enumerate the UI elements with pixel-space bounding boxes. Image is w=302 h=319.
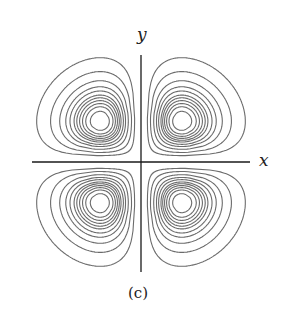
- contour-line: [165, 101, 203, 139]
- y-axis-label: y: [137, 24, 147, 44]
- contour-line: [80, 186, 118, 224]
- contour-line: [165, 186, 203, 224]
- contour-line: [83, 104, 116, 137]
- contour-line: [90, 194, 109, 213]
- contour-line: [167, 188, 200, 221]
- contour-line: [173, 111, 192, 130]
- contour-line: [90, 111, 109, 130]
- contour-line: [60, 175, 129, 244]
- contour-line: [154, 175, 223, 244]
- contour-plot: [0, 0, 302, 319]
- contour-line: [167, 104, 200, 137]
- contour-line: [60, 81, 129, 150]
- contour-line: [83, 188, 116, 221]
- contour-line: [154, 81, 223, 150]
- contour-line: [80, 101, 118, 139]
- x-axis-label: x: [259, 150, 269, 170]
- figure-caption: (c): [128, 284, 148, 302]
- contour-line: [173, 194, 192, 213]
